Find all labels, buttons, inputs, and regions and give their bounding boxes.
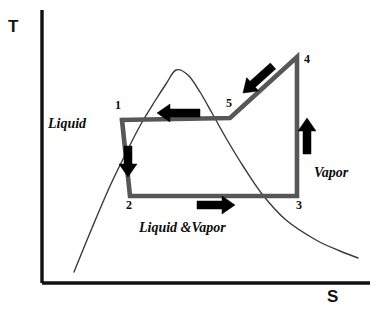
y-axis-label: T — [8, 18, 18, 35]
state-label-5: 5 — [226, 97, 232, 109]
region-label-vapor: Vapor — [314, 166, 348, 180]
rankine-cycle-path — [122, 57, 297, 196]
region-label-liquid-and-vapor: Liquid &Vapor — [139, 221, 226, 235]
state-label-4: 4 — [304, 53, 310, 65]
state-label-3: 3 — [296, 199, 302, 211]
x-axis-label: S — [327, 288, 338, 305]
arrow-3-to-4-icon — [298, 118, 316, 154]
state-label-1: 1 — [115, 99, 121, 111]
arrow-2-to-3-icon — [197, 196, 235, 214]
region-label-liquid: Liquid — [48, 117, 86, 131]
process-arrows-group — [119, 63, 316, 214]
state-label-2: 2 — [126, 199, 132, 211]
ts-diagram-canvas — [0, 0, 379, 319]
ts-diagram-figure: T S Liquid Liquid &Vapor Vapor 1 2 3 4 5 — [0, 0, 379, 319]
